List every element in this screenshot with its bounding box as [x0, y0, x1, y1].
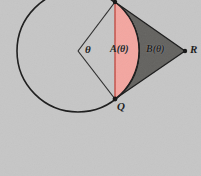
point-r-label: R: [190, 44, 197, 55]
geometry-figure: [0, 0, 201, 176]
point-q-label: Q: [117, 101, 125, 112]
point-p-dot: [113, 0, 117, 4]
angle-theta-label: θ: [85, 44, 91, 55]
area-b-label: B(θ): [146, 44, 165, 54]
point-r-dot: [183, 49, 187, 53]
figure-container: θ A(θ) B(θ) R Q: [0, 0, 201, 176]
area-a-label: A(θ): [110, 44, 129, 54]
